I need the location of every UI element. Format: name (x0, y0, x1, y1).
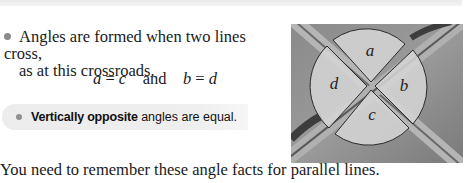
crossroads-figure: a b c d (291, 24, 463, 163)
top-divider-band (0, 0, 462, 6)
label-a: a (366, 41, 375, 60)
label-d: d (330, 74, 339, 93)
angle-equation: a = c and b = d (93, 69, 217, 89)
bullet-icon (16, 114, 22, 120)
label-c: c (368, 105, 376, 124)
bullet-line-1: Angles are formed when two lines cross, (4, 27, 246, 63)
footer-sentence: You need to remember these angle facts f… (0, 160, 380, 180)
bullet-icon (4, 33, 11, 40)
eq-d: d (209, 69, 217, 88)
eq-a: a (93, 69, 101, 88)
key-fact-box: Vertically opposite angles are equal. (2, 104, 248, 130)
key-fact-rest: angles are equal. (138, 110, 237, 124)
label-b: b (400, 76, 409, 95)
eq-equals-1: = (101, 69, 119, 88)
eq-and: and (143, 69, 167, 88)
eq-c: c (119, 69, 126, 88)
eq-b: b (183, 69, 191, 88)
crossroads-diagram-icon: a b c d (291, 24, 463, 163)
key-fact-bold: Vertically opposite (31, 110, 138, 124)
eq-equals-2: = (191, 69, 209, 88)
